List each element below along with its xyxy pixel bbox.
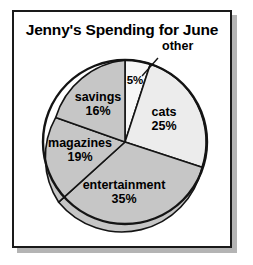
pie-chart-svg: other 5% cats 25% entertainment 35% maga… bbox=[14, 12, 230, 246]
pie-label-savings: savings bbox=[75, 90, 122, 104]
pie-label-cats: cats bbox=[151, 105, 176, 119]
pie-value-savings: 16% bbox=[85, 104, 110, 118]
screenshot-root: Jenny's Spending for June bbox=[0, 0, 253, 265]
pie-value-other: 5% bbox=[127, 74, 144, 86]
pie-label-magazines: magazines bbox=[48, 136, 112, 150]
pie-chart: other 5% cats 25% entertainment 35% maga… bbox=[14, 12, 230, 246]
pie-chart-card: Jenny's Spending for June bbox=[12, 10, 232, 248]
pie-label-entertainment: entertainment bbox=[83, 178, 166, 192]
pie-label-other: other bbox=[162, 39, 193, 53]
pie-value-cats: 25% bbox=[151, 119, 176, 133]
pie-value-magazines: 19% bbox=[67, 150, 92, 164]
pie-value-entertainment: 35% bbox=[111, 192, 136, 206]
